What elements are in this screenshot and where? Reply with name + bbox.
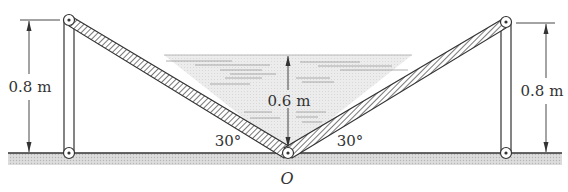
- left-height-label: 0.8 m: [9, 78, 52, 96]
- pin-right-bottom: [501, 148, 512, 159]
- hinge-label-O: O: [280, 169, 293, 188]
- diagram-canvas: 0.8 m 0.8 m 0.6 m 30° 30° O: [0, 0, 568, 192]
- water-depth-label: 0.6 m: [268, 92, 311, 110]
- left-angle-label: 30°: [215, 132, 242, 150]
- right-strut: [501, 22, 511, 153]
- left-strut: [64, 20, 74, 153]
- right-height-label: 0.8 m: [521, 82, 564, 100]
- pin-left-top: [64, 15, 75, 26]
- gate-diagram: 0.8 m 0.8 m 0.6 m 30° 30° O: [0, 0, 568, 192]
- right-angle-label: 30°: [337, 132, 364, 150]
- hinge-pin-O: [283, 148, 294, 159]
- pin-right-top: [501, 17, 512, 28]
- pin-left-bottom: [64, 148, 75, 159]
